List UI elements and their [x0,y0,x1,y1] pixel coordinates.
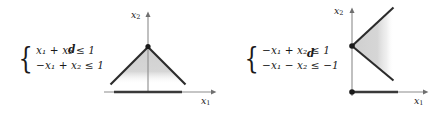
x-axis-label-left: x1 [201,95,211,107]
plot-right-svg [330,0,441,115]
apex-marker-right [349,43,355,49]
equation-left-2: −x₁ + x₂ ≤ 1 [36,60,104,71]
brace-right: { [244,43,258,73]
constraint-system-left: { x₁ + x₂ ≤ 1 −x₁ + x₂ ≤ 1 [16,42,111,74]
panel-right: { −x₁ + x₂ ≤ 1 −x₁ − x₂ ≤ −1 [220,0,441,115]
y-axis-label-right: x2 [334,5,344,17]
cone-region-right [352,8,393,80]
apex-marker-left [145,44,150,49]
direction-label-right: d [307,47,314,59]
equation-right-1: −x₁ + x₂ ≤ 1 [262,45,339,56]
direction-label-left: d [68,43,75,55]
brace-left: { [18,43,32,73]
equation-list-right: −x₁ + x₂ ≤ 1 −x₁ − x₂ ≤ −1 [262,45,339,70]
panel-left: { x₁ + x₂ ≤ 1 −x₁ + x₂ ≤ 1 [0,0,220,115]
figure-root: { x₁ + x₂ ≤ 1 −x₁ + x₂ ≤ 1 [0,0,441,115]
x-axis-label-right: x1 [414,95,424,107]
plot-right: x2 x1 d [330,0,441,115]
plot-left: x2 x1 d [100,0,220,115]
equation-right-2: −x₁ − x₂ ≤ −1 [262,60,339,71]
y-axis-label-left: x2 [131,9,141,21]
origin-marker-right [349,89,355,95]
